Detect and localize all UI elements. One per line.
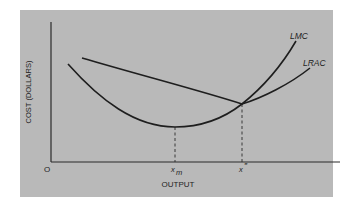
svg-text:x: x	[170, 165, 175, 174]
svg-text:x: x	[238, 165, 243, 174]
x-axis-label: OUTPUT	[162, 180, 195, 189]
cost-curves-diagram: LMC LRAC COST (DOLLARS) O x m x ‴ OUTPUT	[0, 0, 359, 203]
svg-text:m: m	[176, 168, 182, 177]
lmc-label: LMC	[290, 31, 309, 41]
lrac-label: LRAC	[303, 58, 327, 68]
origin-label: O	[44, 165, 50, 174]
y-axis-label: COST (DOLLARS)	[24, 60, 33, 123]
